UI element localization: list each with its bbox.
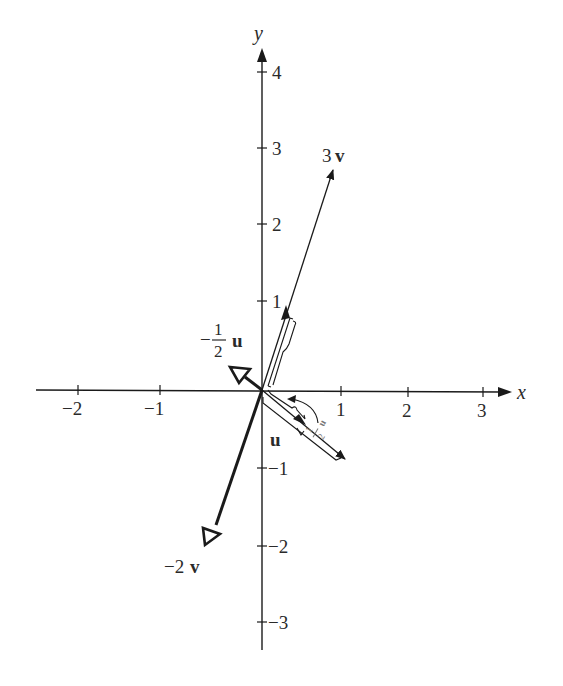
vector-u: u 1 2 u	[262, 390, 345, 460]
y-tick-neg1: −1	[268, 458, 288, 479]
y-tick-2: 2	[272, 214, 282, 235]
y-tick-1: 1	[272, 291, 282, 312]
x-tick-3: 3	[477, 400, 487, 421]
label-half-u-rotated: 1 2 u	[302, 413, 334, 443]
y-axis-label: y	[252, 22, 263, 45]
x-axis-arrow-icon	[498, 387, 512, 397]
x-tick-neg2: −2	[62, 398, 82, 419]
open-arrowhead-icon	[230, 367, 250, 383]
label-neg-half-u-num: 1	[214, 320, 223, 339]
y-axis-arrow-icon	[257, 48, 267, 62]
svg-text:1: 1	[303, 425, 315, 435]
vector-diagram: x −2 −1 1 2 3 y 4 3 2 1 −1 −2 −3	[0, 0, 563, 686]
x-axis-label: x	[516, 381, 526, 403]
label-3v-coef: 3	[322, 145, 332, 166]
label-neg2v-name: v	[190, 556, 200, 577]
svg-text:u: u	[316, 417, 329, 428]
y-axis: y 4 3 2 1 −1 −2 −3	[252, 22, 288, 650]
y-tick-neg3: −3	[268, 612, 288, 633]
x-tick-1: 1	[336, 399, 346, 420]
x-tick-neg1: −1	[144, 398, 164, 419]
y-tick-3: 3	[272, 138, 282, 159]
label-neg2v-coef: −2	[164, 556, 184, 577]
v-brace	[268, 318, 293, 387]
svg-text:2: 2	[315, 432, 327, 442]
label-neg-half-u-den: 2	[214, 342, 223, 361]
y-tick-neg2: −2	[268, 536, 288, 557]
vector-neg2v: −2 v	[164, 390, 262, 577]
vector-3v: 3 v	[262, 145, 345, 390]
label-neg-half-u-sign: −	[200, 329, 211, 350]
label-3v-name: v	[335, 145, 345, 166]
y-tick-4: 4	[272, 62, 282, 83]
vector-neg-half-u: − 1 2 u	[200, 320, 262, 390]
label-u: u	[270, 429, 281, 450]
curved-arrow-icon	[287, 395, 296, 403]
label-neg-half-u-name: u	[232, 330, 243, 351]
open-arrowhead-icon	[203, 528, 220, 545]
x-tick-2: 2	[402, 400, 412, 421]
